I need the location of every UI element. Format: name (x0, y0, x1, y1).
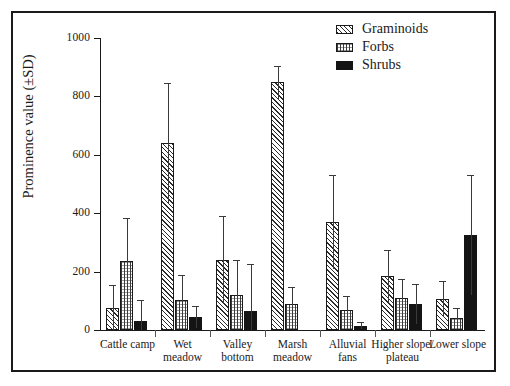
legend-label: Graminoids (362, 21, 428, 37)
error-bar-stem (292, 287, 293, 322)
y-tick-mark (94, 272, 100, 273)
y-tick-mark (94, 38, 100, 39)
y-tick-label: 800 (44, 89, 90, 101)
error-bar-stem (251, 264, 252, 330)
x-axis-line (100, 330, 485, 331)
figure-canvas: Prominence value (±SD) 02004006008001000… (0, 0, 510, 386)
y-tick-mark (94, 96, 100, 97)
error-bar-cap (357, 322, 364, 323)
error-bar-stem (278, 66, 279, 99)
legend-label: Shrubs (362, 57, 401, 73)
error-bar-stem (416, 284, 417, 324)
error-bar-cap (288, 287, 295, 288)
error-bar-stem (388, 250, 389, 303)
error-bar-stem (237, 260, 238, 330)
error-bar-cap (109, 285, 116, 286)
x-axis-group-separator (375, 330, 376, 337)
error-bar-stem (141, 300, 142, 330)
x-tick-label: Lower slope (422, 338, 493, 351)
legend: GraminoidsForbsShrubs (336, 20, 428, 74)
error-bar-stem (182, 275, 183, 326)
error-bar-cap (247, 264, 254, 265)
error-bar-cap (164, 83, 171, 84)
error-bar-stem (127, 218, 128, 306)
x-axis-group-separator (430, 330, 431, 337)
legend-item-graminoids: Graminoids (336, 20, 428, 38)
error-bar-stem (443, 281, 444, 317)
x-axis-group-separator (210, 330, 211, 337)
error-bar-cap (123, 218, 130, 219)
error-bar-cap (343, 296, 350, 297)
error-bar-cap (398, 279, 405, 280)
error-bar-cap (439, 281, 446, 282)
error-bar-stem (361, 322, 362, 329)
error-bar-cap (233, 260, 240, 261)
legend-item-shrubs: Shrubs (336, 56, 428, 74)
y-tick-mark (94, 330, 100, 331)
y-tick-label: 600 (44, 148, 90, 160)
bar-graminoids (271, 82, 284, 330)
error-bar-cap (178, 275, 185, 276)
error-bar-cap (137, 300, 144, 301)
y-tick-label: 200 (44, 265, 90, 277)
y-tick-label: 0 (44, 323, 90, 335)
error-bar-stem (457, 308, 458, 328)
legend-item-forbs: Forbs (336, 38, 428, 56)
error-bar-stem (196, 306, 197, 328)
x-tick-label-line: Lower slope (422, 338, 493, 351)
legend-swatch-forbs-icon (336, 43, 353, 52)
x-tick-label-line: plateau (367, 351, 438, 364)
error-bar-stem (113, 285, 114, 330)
legend-swatch-graminoids-icon (336, 25, 353, 34)
y-tick-label: 400 (44, 206, 90, 218)
y-tick-mark (94, 155, 100, 156)
error-bar-stem (333, 175, 334, 270)
error-bar-stem (471, 175, 472, 295)
error-bar-stem (168, 83, 169, 203)
error-bar-cap (219, 216, 226, 217)
error-bar-cap (384, 250, 391, 251)
error-bar-stem (347, 296, 348, 322)
x-axis-group-separator (265, 330, 266, 337)
y-axis-line (100, 38, 101, 330)
error-bar-cap (329, 175, 336, 176)
y-axis-title: Prominence value (±SD) (20, 17, 37, 237)
y-tick-mark (94, 213, 100, 214)
error-bar-stem (223, 216, 224, 304)
legend-label: Forbs (362, 39, 394, 55)
error-bar-cap (453, 308, 460, 309)
error-bar-cap (192, 306, 199, 307)
error-bar-stem (402, 279, 403, 317)
legend-swatch-shrubs-icon (336, 61, 353, 70)
error-bar-cap (274, 66, 281, 67)
x-axis-group-separator (320, 330, 321, 337)
error-bar-cap (467, 175, 474, 176)
x-axis-group-separator (155, 330, 156, 337)
error-bar-cap (412, 284, 419, 285)
y-tick-label: 1000 (44, 31, 90, 43)
